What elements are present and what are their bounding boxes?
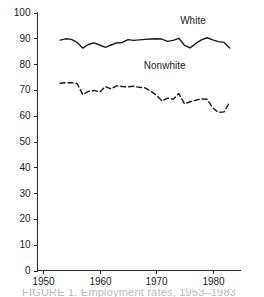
y-tick-label: 0 — [25, 265, 31, 276]
chart-container: 0102030405060708090100 1950196019701980 … — [0, 0, 264, 297]
y-tick-group: 0102030405060708090100 — [14, 7, 38, 276]
x-tick-label: 1970 — [145, 276, 168, 287]
figure-caption-clipped: FIGURE 1. Employment rates, 1953–1983 — [0, 289, 264, 297]
series-line-nonwhite — [60, 83, 230, 113]
x-tick-label: 1980 — [202, 276, 225, 287]
y-tick-label: 70 — [19, 84, 31, 95]
y-tick-label: 90 — [19, 33, 31, 44]
series-annotation-nonwhite: Nonwhite — [144, 60, 186, 71]
series-group — [60, 38, 230, 113]
x-tick-group: 1950196019701980 — [32, 271, 225, 287]
figure-caption-text: FIGURE 1. Employment rates, 1953–1983 — [22, 289, 236, 297]
y-axis: 0102030405060708090100 — [14, 7, 38, 276]
y-tick-label: 80 — [19, 59, 31, 70]
line-chart: 0102030405060708090100 1950196019701980 … — [0, 0, 264, 297]
y-tick-label: 20 — [19, 213, 31, 224]
x-tick-label: 1960 — [89, 276, 112, 287]
y-tick-label: 100 — [14, 7, 31, 18]
y-tick-label: 30 — [19, 188, 31, 199]
y-tick-label: 10 — [19, 239, 31, 250]
x-axis: 1950196019701980 — [32, 271, 241, 287]
x-tick-label: 1950 — [32, 276, 55, 287]
series-annotation-white: White — [180, 15, 206, 26]
y-tick-label: 50 — [19, 136, 31, 147]
series-line-white — [60, 38, 230, 48]
y-tick-label: 60 — [19, 110, 31, 121]
y-tick-label: 40 — [19, 162, 31, 173]
